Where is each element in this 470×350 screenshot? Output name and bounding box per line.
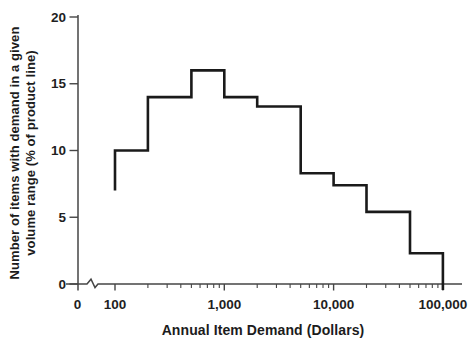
x-tick-label: 10,000 [313,297,354,312]
x-tick-label: 100 [104,297,127,312]
step-line-series [115,70,443,290]
y-tick-label: 0 [58,277,66,292]
y-axis-title-line-2: volume range (% of product line) [22,26,38,279]
y-axis-title-line-1: Number of items with demand in a given [7,26,23,279]
chart-plot-area: 0510152001001,00010,000100,000 [0,0,470,350]
x-axis-title: Annual Item Demand (Dollars) [162,322,365,338]
y-tick-label: 20 [51,10,66,25]
y-tick-label: 5 [58,210,66,225]
y-tick-label: 10 [51,143,66,158]
y-tick-label: 15 [51,76,67,91]
y-axis-title: Number of items with demand in a given v… [7,26,38,279]
demand-distribution-figure: 0510152001001,00010,000100,000 Number of… [0,0,470,350]
x-axis-line-with-break [66,279,462,287]
x-tick-label: 0 [74,297,82,312]
x-tick-label: 100,000 [418,297,467,312]
x-tick-label: 1,000 [207,297,241,312]
